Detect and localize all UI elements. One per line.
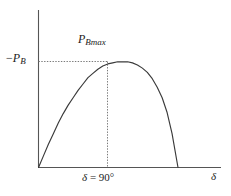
- peak-value-subscript: Bmax: [85, 37, 106, 47]
- y-axis-value-minus: −: [6, 51, 13, 65]
- y-axis-value-label: −PB: [6, 52, 26, 66]
- peak-value-label: PBmax: [78, 33, 106, 47]
- x-axis-tick-value: = 90°: [87, 171, 114, 183]
- y-axis-value-subscript: B: [20, 56, 26, 66]
- figure-background: [0, 0, 231, 196]
- power-angle-curve-figure: [0, 0, 231, 196]
- x-axis-tick-label: δ = 90°: [82, 172, 114, 183]
- x-axis-label: δ: [211, 171, 216, 182]
